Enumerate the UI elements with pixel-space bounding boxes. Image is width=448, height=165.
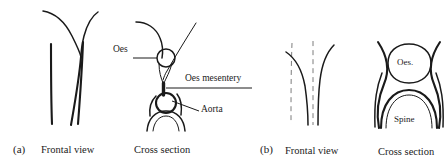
panel-b-spine-inner-label: Spine [394,115,415,124]
panel-b-right-wall [318,45,334,125]
panel-a-oes-mesentery-callout-label: Oes mesentery [185,74,241,84]
panel-a-oes-callout-label: Oes [113,45,128,55]
panel-b-frontal-view-drawing [286,41,334,125]
panel-a-left-outer-wall [43,11,81,57]
panel-a-aorta-left-shoulder [150,96,156,116]
panel-a-aorta-circle [156,93,176,113]
panel-a-aorta-callout-label: Aorta [201,105,223,115]
panel-b-oes-inner-label: Oes. [397,58,413,67]
panel-b-left-wall [286,52,308,125]
panel-a-frontal-view-drawing [43,11,98,125]
panel-b-cross-section-caption: Cross section [378,147,434,158]
panel-a-diagonal-wall [163,23,196,80]
panel-a-left-inner-wall [51,44,52,124]
panel-a-cross-section-caption: Cross section [134,145,190,156]
panel-a-tag: (a) [13,144,25,155]
panel-a-frontal-view-caption: Frontal view [41,145,94,156]
panel-a-funnel-right [164,63,172,83]
panel-a-oesophagus-circle [157,49,175,67]
panel-a-vertebra-inner-arch [153,116,179,131]
panel-b-left-dashed-guide [291,43,292,124]
panel-b-frontal-view-caption: Frontal view [285,146,338,157]
figure-root: Oes Oes mesentery Aorta Oes. Spine (a) F… [0,0,448,165]
panel-b-tag: (b) [260,144,273,155]
